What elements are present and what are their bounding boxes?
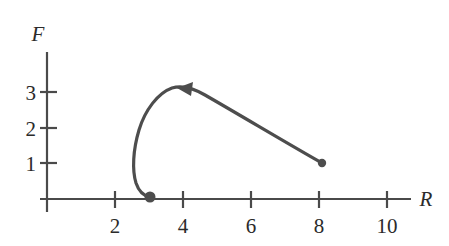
y-tick-label-1: 1 (26, 152, 37, 176)
x-tick-label-6: 6 (246, 214, 257, 238)
end-point-marker (318, 159, 326, 167)
trajectory-curve (134, 87, 322, 197)
y-tick-label-2: 2 (26, 117, 37, 141)
start-point-marker (145, 192, 156, 203)
chart-figure: 2 4 6 8 10 3 2 1 F R (0, 0, 449, 246)
x-tick-label-10: 10 (377, 214, 398, 238)
direction-arrow-icon (177, 82, 193, 96)
x-tick-label-2: 2 (110, 214, 121, 238)
x-tick-label-8: 8 (314, 214, 325, 238)
phase-plane-plot: 2 4 6 8 10 3 2 1 F R (0, 0, 449, 246)
y-axis-title: F (31, 22, 45, 46)
y-tick-label-3: 3 (26, 81, 37, 105)
x-tick-label-4: 4 (178, 214, 189, 238)
x-axis-title: R (419, 187, 433, 211)
